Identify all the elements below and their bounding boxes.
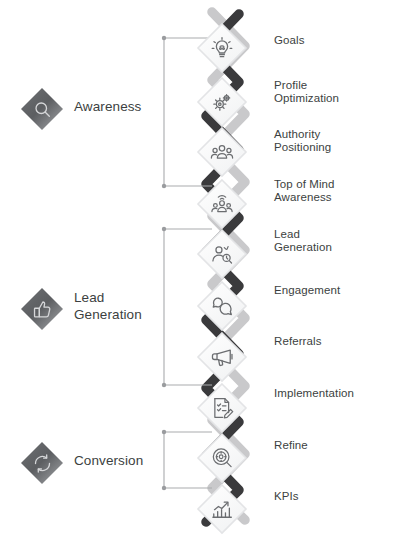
group-people-icon	[196, 126, 248, 178]
gear-magnifier-icon	[196, 432, 248, 484]
step-label-7: Referrals	[274, 335, 322, 348]
step-label-9: Refine	[274, 439, 308, 452]
group-title-lead-generation: Lead Generation	[74, 290, 142, 323]
group-badge-conversion[interactable]	[19, 440, 65, 486]
step-node-10[interactable]	[196, 483, 248, 535]
step-label-4: Top of Mind Awareness	[274, 178, 335, 204]
step-node-7[interactable]	[196, 331, 248, 383]
group-title-conversion: Conversion	[74, 453, 143, 470]
broadcast-people-icon	[196, 178, 248, 230]
step-label-5: Lead Generation	[274, 228, 332, 254]
infographic-canvas: Goals Profile Optimization	[0, 0, 400, 537]
checklist-pencil-icon	[196, 382, 248, 434]
step-label-10: KPIs	[274, 490, 299, 503]
megaphone-icon	[196, 331, 248, 383]
refresh-cycle-diamond-icon	[19, 440, 65, 486]
group-badge-awareness[interactable]	[19, 86, 65, 132]
step-node-2[interactable]	[196, 76, 248, 128]
person-search-icon	[196, 228, 248, 280]
lightbulb-icon	[196, 22, 248, 74]
step-label-6: Engagement	[274, 284, 340, 297]
bar-chart-arrow-icon	[196, 483, 248, 535]
step-node-1[interactable]	[196, 22, 248, 74]
step-label-3: Authority Positioning	[274, 128, 331, 154]
step-node-3[interactable]	[196, 126, 248, 178]
step-node-9[interactable]	[196, 432, 248, 484]
step-label-2: Profile Optimization	[274, 79, 339, 105]
gears-icon	[196, 76, 248, 128]
chat-bubbles-icon	[196, 280, 248, 332]
step-node-4[interactable]	[196, 178, 248, 230]
group-title-awareness: Awareness	[74, 99, 141, 116]
step-node-6[interactable]	[196, 280, 248, 332]
step-label-8: Implementation	[274, 387, 354, 400]
thumbs-up-diamond-icon	[19, 286, 65, 332]
group-badge-lead-generation[interactable]	[19, 286, 65, 332]
step-node-5[interactable]	[196, 228, 248, 280]
step-node-8[interactable]	[196, 382, 248, 434]
step-label-1: Goals	[274, 34, 305, 47]
magnifier-diamond-icon	[19, 86, 65, 132]
